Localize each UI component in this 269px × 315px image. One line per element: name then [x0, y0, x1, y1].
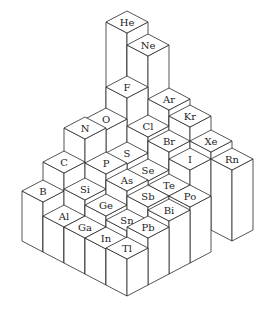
element-symbol-label: Rn: [225, 154, 240, 165]
element-symbol-label: Si: [80, 184, 90, 195]
element-symbol-label: Al: [58, 211, 69, 222]
element-symbol-label: I: [188, 154, 192, 165]
element-symbol-label: Xe: [204, 136, 217, 147]
element-symbol-label: C: [60, 157, 68, 168]
element-symbol-label: Cl: [143, 121, 154, 132]
column-left-face: [211, 159, 232, 241]
element-symbol-label: Br: [163, 136, 175, 147]
element-symbol-label: Ne: [141, 40, 156, 51]
element-symbol-label: Po: [184, 191, 196, 202]
element-symbol-label: Bi: [164, 205, 175, 216]
element-column-tl: Tl: [106, 237, 148, 296]
element-symbol-label: Se: [142, 165, 155, 176]
element-symbol-label: F: [124, 82, 131, 93]
element-symbol-label: P: [103, 158, 110, 169]
element-symbol-label: Ge: [99, 200, 113, 211]
element-symbol-label: As: [120, 175, 133, 186]
element-symbol-label: Tl: [122, 243, 132, 254]
element-symbol-label: Sb: [141, 191, 154, 202]
element-symbol-label: Pb: [141, 222, 154, 233]
element-symbol-label: He: [120, 17, 135, 28]
column-right-face: [190, 196, 211, 263]
element-symbol-label: O: [102, 114, 110, 125]
column-right-face: [232, 159, 253, 241]
element-symbol-label: N: [81, 123, 90, 134]
element-symbol-label: Ga: [78, 222, 92, 233]
element-symbol-label: S: [124, 148, 131, 159]
element-symbol-label: Kr: [184, 111, 196, 122]
element-column-rn: Rn: [211, 148, 253, 241]
element-symbol-label: Te: [163, 180, 175, 191]
isometric-columns-svg: HeNeFArOClKrNSBrXeCPSeIRnBSiAsTeAlGeSbPo…: [0, 0, 269, 315]
element-symbol-label: Ar: [162, 94, 175, 105]
isometric-periodic-diagram: HeNeFArOClKrNSBrXeCPSeIRnBSiAsTeAlGeSbPo…: [0, 0, 269, 315]
element-symbol-label: B: [39, 186, 46, 197]
element-symbol-label: In: [101, 233, 112, 244]
